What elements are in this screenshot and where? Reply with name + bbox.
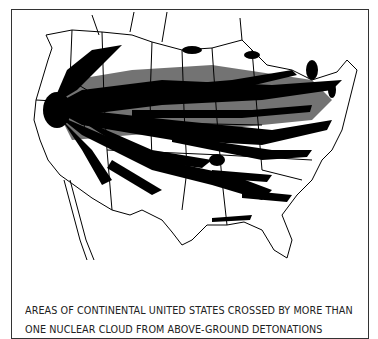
figure-frame: AREAS OF CONTINENTAL UNITED STATES CROSS… [11,9,369,339]
caption-line-1: AREAS OF CONTINENTAL UNITED STATES CROSS… [25,301,322,320]
figure-caption: AREAS OF CONTINENTAL UNITED STATES CROSS… [25,301,322,339]
us-fallout-map [12,10,370,270]
caption-line-2: ONE NUCLEAR CLOUD FROM ABOVE-GROUND DETO… [25,320,322,339]
